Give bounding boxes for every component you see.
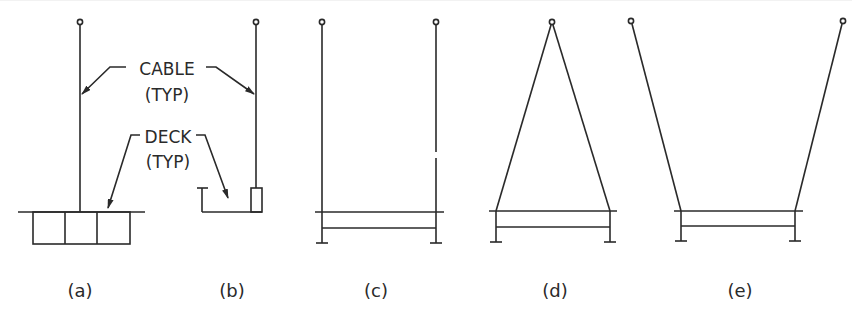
anchor-icon	[433, 19, 438, 24]
panel-c	[315, 19, 444, 243]
deck-typ-label: (TYP)	[146, 152, 190, 172]
anchor-icon	[253, 19, 258, 24]
panel-label-d: (d)	[542, 280, 567, 301]
cable-label: CABLE	[139, 59, 194, 79]
deck-label: DECK	[145, 127, 193, 147]
panel-b	[197, 19, 262, 212]
deck-edge-box	[251, 188, 262, 212]
cable-left	[496, 25, 551, 211]
panel-label-c: (c)	[364, 280, 388, 301]
panel-label-a: (a)	[67, 280, 92, 301]
anchor-icon	[77, 19, 82, 24]
anchor-icon	[319, 19, 324, 24]
anchor-icon	[628, 18, 633, 23]
cable-left	[632, 24, 681, 211]
cable-right	[553, 25, 610, 211]
diagram-canvas: CABLE (TYP) DECK (TYP) (a) (b) (c) (d) (…	[0, 0, 852, 316]
top-border	[0, 0, 852, 1]
panel-a	[18, 19, 145, 244]
anchor-icon	[840, 18, 845, 23]
panel-label-b: (b)	[219, 280, 244, 301]
panel-e	[628, 18, 845, 241]
panel-label-e: (e)	[727, 280, 752, 301]
anchor-icon	[549, 19, 554, 24]
cable-typ-label: (TYP)	[145, 85, 189, 105]
panel-d	[489, 19, 617, 242]
cable-right	[795, 24, 842, 211]
deck-box	[33, 212, 130, 244]
